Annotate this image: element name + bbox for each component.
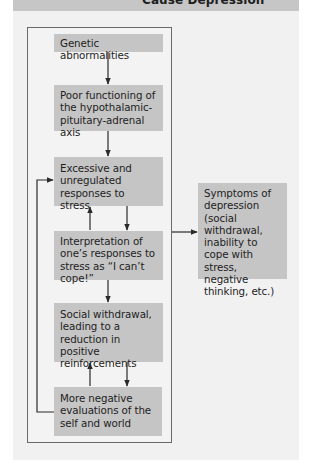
arrow-connectors [0,0,313,472]
arrow-feedback-loop [37,180,54,412]
